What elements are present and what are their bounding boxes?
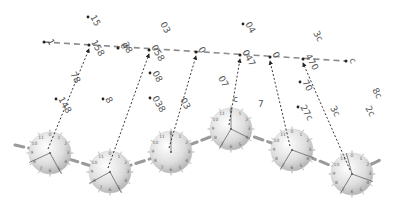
diagram-canvas: 1c158005800470470 0123456789101101234567… — [0, 0, 399, 211]
dial-tick — [310, 161, 312, 162]
dial-number: 7 — [100, 185, 103, 190]
scattered-label: 04 — [243, 20, 258, 35]
line-point-label: 0 — [196, 45, 208, 55]
dial-tick — [310, 138, 312, 139]
dial-tick — [68, 141, 70, 142]
dial-number: 3 — [67, 150, 70, 155]
dial-number: 9 — [91, 169, 94, 174]
scattered-label: 07 — [216, 74, 230, 89]
dial-number: 10 — [153, 140, 159, 145]
dial-number: 9 — [31, 150, 34, 155]
scattered-label: 03 — [158, 20, 172, 35]
dial-tick — [182, 132, 183, 134]
dial-tick — [363, 192, 364, 194]
sphere-center-dot — [291, 149, 293, 151]
sphere-center-dot — [170, 151, 172, 153]
dial-tick — [249, 117, 251, 118]
dial-number: 1 — [58, 135, 61, 140]
dial-number: 0 — [109, 151, 112, 156]
dotted-arrow — [108, 54, 149, 168]
dial-number: 9 — [212, 126, 215, 131]
scattered-label: 038 — [150, 94, 167, 114]
scattered-label: 78 — [68, 70, 83, 85]
dial-number: 9 — [273, 147, 276, 152]
clock-sphere: 01234567891011 — [269, 127, 316, 174]
dial-number: 6 — [170, 167, 173, 172]
dial-number: 8 — [154, 158, 157, 163]
dial-number: 2 — [64, 141, 67, 146]
dial-number: 11 — [98, 154, 104, 159]
dial-tick — [370, 185, 372, 186]
dial-number: 2 — [366, 162, 369, 167]
clock-sphere: 01234567891011 — [329, 151, 376, 198]
clock-sphere: 01234567891011 — [148, 129, 195, 176]
scattered-label: 27c — [298, 103, 315, 122]
dotted-arrow — [48, 49, 89, 149]
dial-tick — [151, 163, 153, 164]
dial-number: 10 — [334, 162, 340, 167]
line-endpoint-dot — [345, 60, 348, 63]
dial-tick — [272, 161, 274, 162]
dial-number: 0 — [291, 129, 294, 134]
dial-number: 2 — [185, 140, 188, 145]
scattered-label: c — [233, 94, 238, 104]
endpoint-label: c — [347, 56, 358, 65]
dial-number: 5 — [239, 142, 242, 147]
scattered-label: 148 — [56, 95, 73, 115]
dial-number: 2 — [245, 117, 248, 122]
scattered-label: 2c — [363, 104, 377, 118]
dial-number: 5 — [300, 163, 303, 168]
scattered-label: 28 — [120, 40, 135, 55]
scattered-label: 7 — [258, 99, 264, 109]
dial-number: 1 — [360, 156, 363, 161]
dial-tick — [61, 133, 62, 135]
dial-tick — [363, 154, 364, 156]
dial-number: 11 — [219, 111, 225, 116]
dial-tick — [128, 183, 130, 184]
line-endpoint-dot — [43, 41, 46, 44]
endpoint-label: 1 — [45, 37, 57, 47]
sphere-center-dot — [230, 128, 232, 130]
dial-tick — [68, 164, 70, 165]
sphere-center-dot — [351, 173, 353, 175]
dial-tick — [303, 168, 304, 170]
dial-number: 2 — [124, 160, 127, 165]
dial-number: 6 — [351, 189, 354, 194]
dial-tick — [98, 190, 99, 192]
dial-number: 3 — [127, 169, 130, 174]
spheres: 0123456789101101234567891011012345678910… — [27, 106, 376, 198]
dial-tick — [242, 147, 243, 149]
dial-number: 10 — [92, 160, 98, 165]
scattered-label: 15 — [88, 13, 102, 28]
top-dashed-line: 1c158005800470470 — [43, 37, 359, 72]
dial-number: 5 — [179, 165, 182, 170]
scattered-label: 8 — [103, 95, 115, 105]
dial-number: 11 — [38, 135, 44, 140]
dial-number: 3 — [188, 149, 191, 154]
dial-number: 0 — [351, 153, 354, 158]
dial-number: 6 — [49, 168, 52, 173]
dial-number: 8 — [214, 135, 217, 140]
dial-tick — [249, 140, 251, 141]
dial-number: 3 — [309, 147, 312, 152]
dial-number: 10 — [274, 138, 280, 143]
clock-sphere: 01234567891011 — [87, 149, 134, 196]
dial-tick — [189, 140, 191, 141]
dial-tick — [182, 170, 183, 172]
line-point-label: 0 — [270, 50, 282, 60]
dial-number: 1 — [300, 132, 303, 137]
dial-number: 11 — [159, 134, 165, 139]
dial-tick — [189, 163, 191, 164]
scattered-labels: 1503043c287808148803803077027c3c2c8c7c — [55, 13, 385, 122]
dial-number: 4 — [306, 156, 309, 161]
dial-number: 3 — [369, 171, 372, 176]
dial-number: 4 — [185, 158, 188, 163]
dial-number: 10 — [32, 141, 38, 146]
clock-sphere-diagram: 1c158005800470470 0123456789101101234567… — [0, 0, 399, 211]
dial-number: 4 — [124, 178, 127, 183]
dial-number: 11 — [280, 132, 286, 137]
dial-number: 2 — [306, 138, 309, 143]
dial-tick — [121, 152, 122, 154]
dial-number: 8 — [335, 180, 338, 185]
dial-number: 7 — [40, 166, 43, 171]
